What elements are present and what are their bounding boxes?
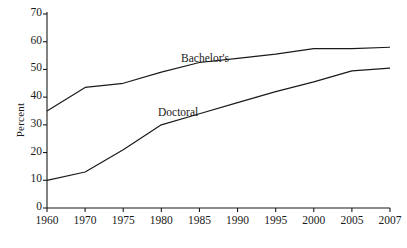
y-tick-label: 10 <box>14 172 42 184</box>
plot-area <box>0 0 407 248</box>
x-tick-marks <box>47 208 390 212</box>
y-tick-label: 70 <box>14 6 42 18</box>
y-tick-label: 40 <box>14 89 42 101</box>
x-tick-label: 2007 <box>368 214 407 226</box>
y-tick-label: 50 <box>14 61 42 73</box>
y-tick-label: 0 <box>14 200 42 212</box>
y-tick-label: 60 <box>14 34 42 46</box>
series-annotation-bachelor-s: Bachelor's <box>181 52 229 64</box>
line-chart: Percent 010203040506070 1960197019751980… <box>0 0 407 248</box>
y-tick-label: 20 <box>14 145 42 157</box>
series-line-doctoral <box>47 68 390 180</box>
series-annotation-doctoral: Doctoral <box>158 106 198 118</box>
series-lines-group <box>47 47 390 180</box>
y-tick-marks <box>43 14 47 208</box>
y-tick-label: 30 <box>14 117 42 129</box>
axes-group <box>47 12 390 208</box>
